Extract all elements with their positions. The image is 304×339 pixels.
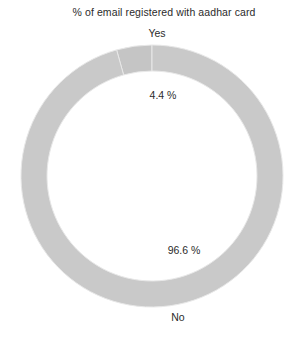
donut-chart: % of email registered with aadhar card Y… xyxy=(0,0,304,339)
donut-graphic xyxy=(0,0,304,339)
slice-value-label-yes: 4.4 % xyxy=(0,89,304,101)
slice-value-label-no: 96.6 % xyxy=(0,244,304,256)
slice-category-label-no: No xyxy=(0,311,304,323)
donut-slice-no[interactable] xyxy=(21,45,283,307)
